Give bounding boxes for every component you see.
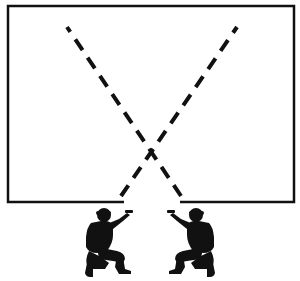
fire-sector-line-left-soldier — [67, 27, 181, 196]
diagram-canvas — [0, 0, 300, 281]
room-entry-diagram — [0, 0, 300, 281]
soldier-left-icon — [85, 208, 133, 277]
room-wall — [8, 6, 294, 202]
soldier-right-icon — [167, 208, 215, 277]
fire-sector-line-right-soldier — [121, 27, 237, 196]
